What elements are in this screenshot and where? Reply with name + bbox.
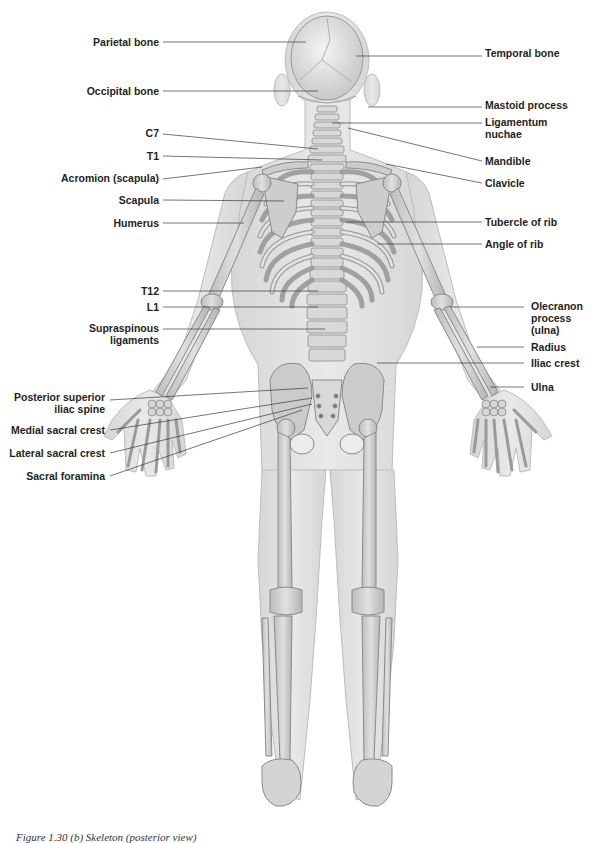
label-sacral-foramina: Sacral foramina — [26, 470, 105, 482]
figure-caption: Figure 1.30 (b) Skeleton (posterior view… — [16, 831, 196, 843]
label-lateral-sacral-crest: Lateral sacral crest — [9, 447, 105, 459]
label-posterior-superior-iliac-spine: Posterior superior iliac spine — [14, 391, 105, 415]
label-supraspinous-ligaments: Supraspinous ligaments — [89, 322, 159, 346]
label-line-2: nuchae — [485, 128, 547, 140]
label-line-2: iliac spine — [14, 403, 105, 415]
label-angle-of-rib: Angle of rib — [485, 238, 543, 250]
label-l1: L1 — [147, 301, 159, 313]
label-line-1: Posterior superior — [14, 391, 105, 403]
label-clavicle: Clavicle — [485, 177, 525, 189]
label-occipital-bone: Occipital bone — [87, 85, 159, 97]
label-line-2: process — [531, 312, 583, 324]
label-ligamentum-nuchae: Ligamentum nuchae — [485, 116, 547, 140]
label-ulna: Ulna — [531, 381, 554, 393]
label-t1: T1 — [147, 150, 159, 162]
label-mastoid-process: Mastoid process — [485, 99, 568, 111]
label-parietal-bone: Parietal bone — [93, 36, 159, 48]
label-iliac-crest: Iliac crest — [531, 357, 579, 369]
feet — [262, 759, 392, 806]
label-mandible: Mandible — [485, 155, 531, 167]
label-scapula: Scapula — [119, 194, 159, 206]
label-olecranon-process: Olecranon process (ulna) — [531, 300, 583, 336]
label-line-2: ligaments — [89, 334, 159, 346]
label-acromion: Acromion (scapula) — [61, 172, 159, 184]
label-medial-sacral-crest: Medial sacral crest — [11, 424, 105, 436]
label-c7: C7 — [146, 127, 159, 139]
label-temporal-bone: Temporal bone — [485, 47, 559, 59]
label-t12: T12 — [141, 285, 159, 297]
label-radius: Radius — [531, 341, 566, 353]
label-line-1: Ligamentum — [485, 116, 547, 128]
label-line-1: Olecranon — [531, 300, 583, 312]
label-tubercle-of-rib: Tubercle of rib — [485, 216, 557, 228]
label-line-3: (ulna) — [531, 324, 583, 336]
label-line-1: Supraspinous — [89, 322, 159, 334]
label-humerus: Humerus — [113, 217, 159, 229]
